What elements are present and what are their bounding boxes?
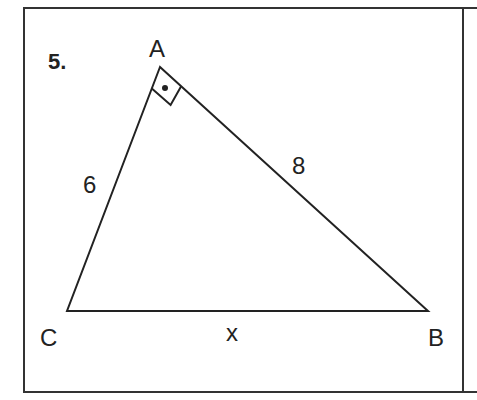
triangle-abc: [67, 67, 428, 311]
problem-number: 5.: [48, 49, 66, 74]
vertex-label-b: B: [428, 324, 444, 351]
right-angle-dot: [162, 85, 168, 91]
problem-frame: [24, 8, 463, 392]
vertex-label-c: C: [40, 324, 57, 351]
vertex-label-a: A: [149, 35, 165, 62]
side-label-ac: 6: [83, 171, 96, 198]
side-label-ab: 8: [292, 152, 305, 179]
side-label-cb: x: [226, 319, 238, 346]
triangle-diagram: 5. A C B 6 8 x: [0, 0, 477, 400]
